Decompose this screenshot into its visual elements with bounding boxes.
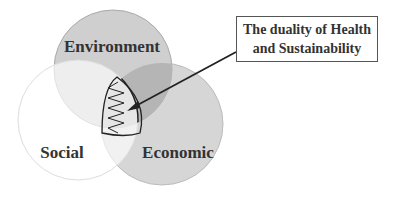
social-label: Social xyxy=(40,143,84,162)
economic-label: Economic xyxy=(142,143,214,162)
callout-line2: and Sustainability xyxy=(237,39,377,58)
callout-line1: The duality of Health xyxy=(237,20,377,39)
callout-box: The duality of Health and Sustainability xyxy=(236,16,378,62)
venn-diagram: Environment Social Economic The duality … xyxy=(0,0,393,198)
environment-label: Environment xyxy=(64,37,160,56)
